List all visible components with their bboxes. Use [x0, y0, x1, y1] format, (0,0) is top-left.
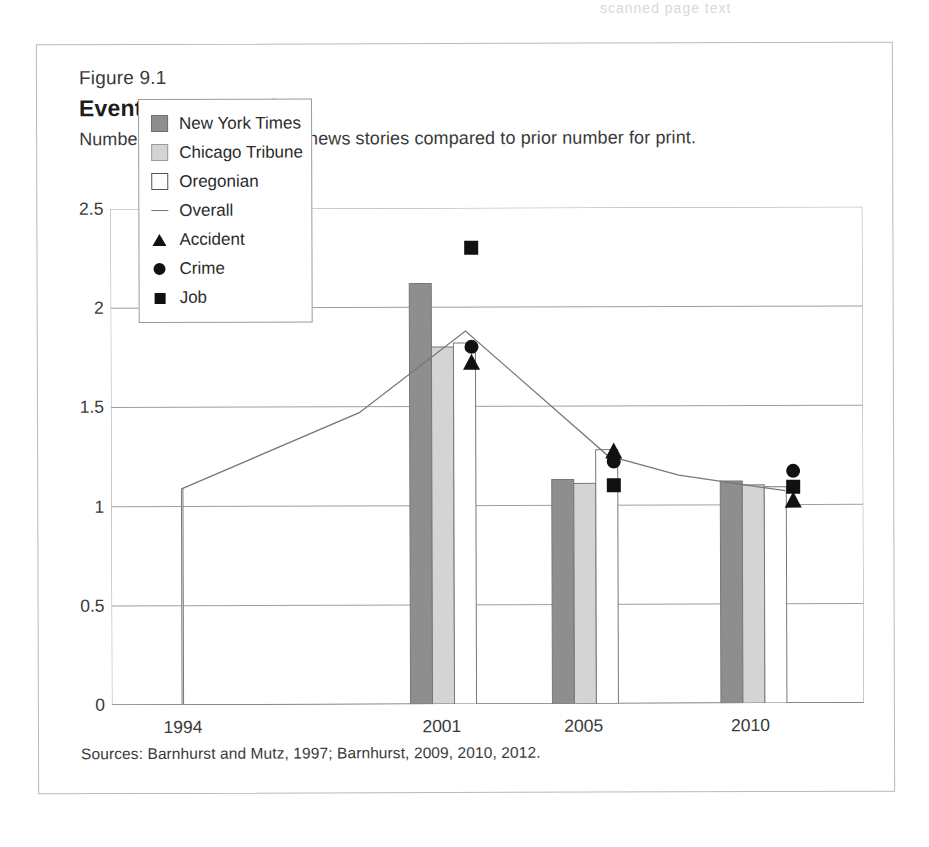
marker-accident-triangle-icon — [785, 492, 802, 508]
y-axis-tick-label: 0.5 — [80, 595, 104, 616]
bar-chicago-tribune — [742, 485, 765, 703]
legend-item: Accident — [151, 224, 311, 254]
marker-crime-circle-icon — [607, 454, 621, 468]
legend-item-label: New York Times — [179, 113, 301, 133]
x-axis-tick-label: 2001 — [422, 716, 461, 737]
bar-oregonian — [453, 343, 476, 704]
empty-square-icon — [151, 173, 168, 190]
marker-crime-circle-icon — [786, 464, 800, 478]
bar-chicago-tribune — [431, 347, 454, 704]
y-axis-labels: 00.511.522.5 — [37, 209, 105, 705]
legend-item: Crime — [151, 253, 311, 283]
marker-job-square-icon — [786, 480, 800, 494]
y-axis-tick-label: 2 — [94, 298, 104, 319]
bar-oregonian — [181, 489, 183, 705]
figure-number: Figure 9.1 — [79, 67, 167, 89]
grid-line — [111, 405, 863, 407]
chart-legend: New York TimesChicago TribuneOregonianOv… — [138, 98, 313, 323]
y-axis-tick-label: 1.5 — [80, 397, 104, 418]
legend-item: Oregonian — [151, 166, 311, 196]
legend-item-label: Chicago Tribune — [179, 142, 303, 162]
circle-marker-icon — [152, 260, 169, 277]
bar-chicago-tribune — [574, 483, 597, 703]
overall-line — [182, 330, 786, 493]
line-icon — [151, 202, 168, 219]
legend-item: Overall — [151, 195, 311, 225]
x-axis-tick-label: 2010 — [731, 715, 770, 736]
bar-new-york-times — [720, 481, 743, 703]
legend-item-label: Accident — [179, 229, 244, 249]
bar-new-york-times — [552, 479, 575, 703]
legend-item-label: Job — [180, 287, 207, 307]
filled-square-light-icon — [151, 144, 168, 161]
x-axis-tick-label: 1994 — [163, 717, 202, 738]
y-axis-tick-label: 0 — [95, 695, 105, 716]
figure-inner: Figure 9.1 Events Spike Online Number of… — [37, 43, 894, 794]
legend-item: Chicago Tribune — [151, 137, 311, 167]
legend-item-label: Overall — [179, 200, 233, 220]
marker-crime-circle-icon — [464, 340, 478, 354]
figure-frame: Figure 9.1 Events Spike Online Number of… — [36, 42, 895, 795]
y-axis-tick-label: 1 — [95, 496, 105, 517]
bar-new-york-times — [409, 283, 432, 704]
plot-right-border — [862, 207, 864, 703]
x-axis-labels: 1994200120052010 — [112, 711, 864, 743]
bar-oregonian — [764, 487, 787, 703]
square-marker-icon — [152, 289, 169, 306]
legend-item: Job — [152, 282, 312, 312]
marker-job-square-icon — [607, 478, 621, 492]
legend-item-label: Oregonian — [179, 171, 258, 191]
y-axis-tick-label: 2.5 — [79, 199, 103, 220]
figure-source-note: Sources: Barnhurst and Mutz, 1997; Barnh… — [81, 744, 541, 763]
marker-job-square-icon — [464, 241, 478, 255]
legend-item-label: Crime — [179, 258, 224, 278]
x-axis-tick-label: 2005 — [564, 716, 603, 737]
legend-item: New York Times — [151, 108, 311, 138]
page-text-remnant: scanned page text — [600, 0, 920, 22]
filled-square-dark-icon — [151, 115, 168, 132]
triangle-marker-icon — [151, 231, 168, 248]
